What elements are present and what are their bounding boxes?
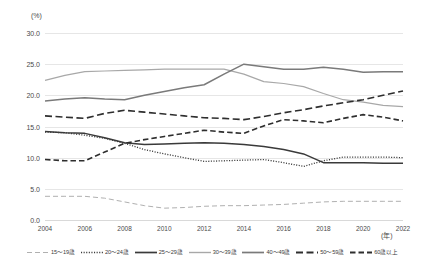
legend-label: 50〜59歳	[320, 248, 344, 256]
legend-label: 15〜19歳	[51, 248, 75, 256]
y-axis-unit-label: (%)	[31, 12, 42, 19]
series-line	[45, 91, 403, 120]
legend-item[interactable]: 40〜49歳	[242, 248, 290, 256]
x-axis-tick-label: 2020	[356, 225, 370, 232]
y-axis-tick-label: 20.0	[26, 92, 40, 99]
legend-item[interactable]: 25〜29歳	[135, 248, 183, 256]
legend-swatch-icon	[81, 249, 103, 256]
line-chart: (%) (年) 0.05.010.015.020.025.030.0 20042…	[0, 0, 425, 267]
y-axis-tick-label: 25.0	[26, 61, 40, 68]
legend-label: 25〜29歳	[159, 248, 183, 256]
series-lines	[45, 33, 403, 220]
y-axis-tick-label: 10.0	[26, 154, 40, 161]
legend-label: 40〜49歳	[266, 248, 290, 256]
x-axis-unit-label: (年)	[381, 230, 393, 240]
x-axis-tick-label: 2016	[276, 225, 290, 232]
legend-swatch-icon	[27, 249, 49, 256]
x-axis-tick-label: 2018	[316, 225, 330, 232]
legend-swatch-icon	[296, 249, 318, 256]
x-axis-tick-label: 2010	[157, 225, 171, 232]
legend-item[interactable]: 15〜19歳	[27, 248, 75, 256]
y-axis-tick-label: 15.0	[26, 123, 40, 130]
legend-swatch-icon	[242, 249, 264, 256]
legend-item[interactable]: 30〜39歳	[189, 248, 237, 256]
series-line	[45, 131, 403, 163]
x-axis-tick-label: 2014	[237, 225, 251, 232]
x-axis-tick-label: 2006	[78, 225, 92, 232]
legend-label: 60歳以上	[374, 248, 398, 256]
chart-legend: 15〜19歳20〜24歳25〜29歳30〜39歳40〜49歳50〜59歳60歳以…	[0, 248, 425, 256]
legend-label: 30〜39歳	[213, 248, 237, 256]
series-line	[45, 196, 403, 208]
x-axis-tick-label: 2012	[197, 225, 211, 232]
legend-swatch-icon	[350, 249, 372, 256]
x-axis-tick-label: 2008	[117, 225, 131, 232]
legend-label: 20〜24歳	[105, 248, 129, 256]
y-axis-tick-label: 0.0	[30, 217, 40, 224]
series-line	[45, 132, 403, 166]
y-axis-tick-label: 30.0	[26, 30, 40, 37]
legend-item[interactable]: 20〜24歳	[81, 248, 129, 256]
x-axis-tick-label: 2004	[38, 225, 52, 232]
gridline	[45, 220, 403, 221]
legend-item[interactable]: 50〜59歳	[296, 248, 344, 256]
legend-item[interactable]: 60歳以上	[350, 248, 398, 256]
legend-swatch-icon	[189, 249, 211, 256]
plot-area: 0.05.010.015.020.025.030.0 2004200620082…	[45, 33, 403, 220]
legend-swatch-icon	[135, 249, 157, 256]
series-line	[45, 115, 403, 161]
y-axis-tick-label: 5.0	[30, 185, 40, 192]
x-axis-tick-label: 2022	[396, 225, 410, 232]
